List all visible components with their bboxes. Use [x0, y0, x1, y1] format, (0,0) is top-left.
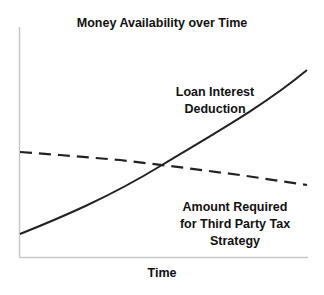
series-third-party-tax-line	[20, 152, 307, 185]
label-third-party-tax: Amount Required for Third Party Tax Stra…	[165, 199, 305, 250]
label-loan-interest-deduction: Loan Interest Deduction	[160, 84, 270, 118]
label-line: Deduction	[160, 101, 270, 118]
label-line: Amount Required	[165, 199, 305, 216]
x-axis-label: Time	[0, 266, 324, 280]
label-line: for Third Party Tax	[165, 216, 305, 233]
label-line: Loan Interest	[160, 84, 270, 101]
label-line: Strategy	[165, 233, 305, 250]
plot-area	[0, 0, 324, 295]
